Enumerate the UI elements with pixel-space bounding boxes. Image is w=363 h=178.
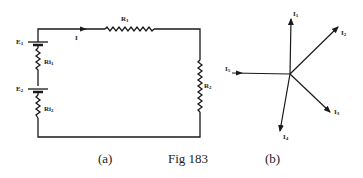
resistor-r1 [105,27,154,31]
vector-i5-label: I5 [225,65,231,73]
internal-resistor-ri1-label: Ri1 [44,58,54,66]
current-node-diagram-b: I1 I2 I3 I4 I5 [225,10,347,141]
vector-i4-arrow-icon [280,74,290,131]
circuit-diagram-a: I R1 R2 E1 Ri1 E2 Ri2 [16,15,212,137]
panel-b-caption: (b) [265,151,280,166]
figure-caption: Fig 183 [168,151,208,166]
vector-i2-arrow-icon [290,27,338,74]
wire-top-left [38,29,105,42]
battery-e2-label: E2 [16,85,24,93]
internal-resistor-ri2-label: Ri2 [44,105,54,113]
battery-e2 [28,89,48,95]
vector-i4-label: I4 [283,133,289,141]
vector-i1-label: I1 [293,10,299,18]
vector-i3-label: I3 [334,108,340,116]
battery-e1-label: E1 [16,38,24,46]
resistor-r2 [198,60,202,112]
figure-canvas: I R1 R2 E1 Ri1 E2 Ri2 [0,0,363,178]
vector-i2-label: I2 [341,29,347,37]
resistor-r1-label: R1 [121,15,129,23]
wire-bottom [38,112,200,137]
battery-e1 [28,42,48,48]
internal-resistor-ri1 [36,48,40,86]
vector-i1-arrow-icon [290,19,291,74]
current-label: I [75,34,78,42]
resistor-r2-label: R2 [204,82,212,90]
panel-a-caption: (a) [98,151,112,166]
internal-resistor-ri2 [36,95,40,118]
vector-i5-arrow-icon [236,71,243,76]
current-arrow-icon [80,27,87,32]
vector-i3-arrow-icon [290,74,330,112]
wire-top-right [154,29,200,60]
